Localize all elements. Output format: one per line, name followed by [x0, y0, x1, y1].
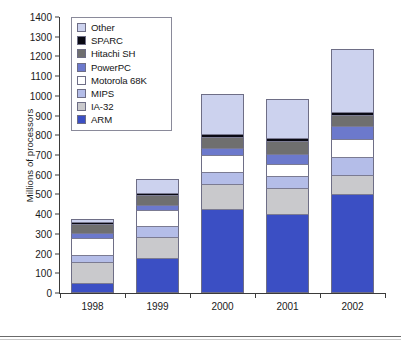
y-axis-tick-400: 400 [35, 209, 52, 220]
x-axis-label-2002: 2002 [323, 301, 383, 312]
bar-segment-2000-mips [201, 172, 244, 184]
legend-label-sparc: SPARC [91, 35, 123, 46]
bar-1998[interactable] [71, 219, 114, 293]
bar-2002[interactable] [331, 49, 374, 293]
bar-segment-2001-ia-32 [266, 188, 309, 215]
bar-segment-2001-other [266, 99, 309, 138]
bar-segment-1998-ia-32 [71, 262, 114, 283]
bar-segment-2001-powerpc [266, 154, 309, 164]
legend-label-ia-32: IA-32 [91, 101, 113, 112]
x-axis-tickmark-5 [385, 293, 386, 298]
legend-swatch-ia-32 [77, 102, 86, 111]
legend-swatch-motorola-68k [77, 76, 86, 85]
footer-clipped-text [4, 341, 399, 346]
bar-segment-2002-hitachi-sh [331, 115, 374, 127]
bar-segment-1999-hitachi-sh [136, 195, 179, 205]
bar-segment-1999-other [136, 179, 179, 193]
bar-segment-1998-mips [71, 255, 114, 263]
bar-segment-1999-motorola-68k [136, 210, 179, 226]
legend-label-mips: MIPS [91, 88, 114, 99]
legend-label-arm: ARM [91, 114, 112, 125]
legend-swatch-other [77, 23, 86, 32]
footer-divider-secondary [0, 339, 401, 340]
bar-segment-2000-hitachi-sh [201, 137, 244, 148]
x-axis-line [59, 293, 385, 294]
footer-divider [0, 336, 401, 337]
stacked-bar-chart: Millions of processors 01002003004005006… [0, 0, 401, 346]
x-axis-tickmark-4 [320, 293, 321, 298]
y-axis-tick-200: 200 [35, 248, 52, 259]
bar-segment-2001-motorola-68k [266, 164, 309, 176]
y-axis-tick-1300: 1300 [30, 31, 52, 42]
legend-item-hitachi-sh[interactable]: Hitachi SH [77, 47, 167, 60]
bar-segment-2002-ia-32 [331, 175, 374, 195]
legend-item-powerpc[interactable]: PowerPC [77, 61, 167, 74]
y-axis-tick-1100: 1100 [30, 71, 52, 82]
chart-legend: OtherSPARCHitachi SHPowerPCMotorola 68KM… [71, 17, 172, 131]
y-axis-tick-100: 100 [35, 268, 52, 279]
x-axis-label-2001: 2001 [258, 301, 318, 312]
x-axis-tickmark-3 [255, 293, 256, 298]
x-axis-label-2000: 2000 [193, 301, 253, 312]
x-axis-tickmark-1 [125, 293, 126, 298]
bar-segment-2002-arm [331, 194, 374, 293]
legend-swatch-arm [77, 115, 86, 124]
bar-segment-2001-hitachi-sh [266, 141, 309, 154]
bar-segment-1999-mips [136, 226, 179, 237]
x-axis-tickmark-2 [190, 293, 191, 298]
bar-segment-2001-mips [266, 176, 309, 188]
legend-swatch-sparc [77, 36, 86, 45]
y-axis-tick-900: 900 [35, 110, 52, 121]
bar-segment-2002-motorola-68k [331, 139, 374, 157]
bar-segment-1998-arm [71, 283, 114, 293]
y-axis-tick-700: 700 [35, 150, 52, 161]
bar-segment-2002-powerpc [331, 126, 374, 139]
bar-segment-2001-arm [266, 214, 309, 293]
bar-2001[interactable] [266, 99, 309, 293]
bar-segment-2002-mips [331, 157, 374, 175]
y-axis-tick-800: 800 [35, 130, 52, 141]
y-axis-tick-600: 600 [35, 169, 52, 180]
x-axis-tickmark-0 [60, 293, 61, 298]
bar-segment-2000-arm [201, 209, 244, 293]
legend-label-motorola-68k: Motorola 68K [91, 75, 147, 86]
legend-label-other: Other [91, 22, 115, 33]
legend-item-other[interactable]: Other [77, 21, 167, 34]
x-axis-label-1998: 1998 [63, 301, 123, 312]
y-axis-tick-labels: 0100200300400500600700800900100011001200… [0, 0, 60, 346]
bar-segment-2000-powerpc [201, 148, 244, 155]
bar-segment-1998-motorola-68k [71, 238, 114, 255]
legend-label-powerpc: PowerPC [91, 62, 131, 73]
legend-item-ia-32[interactable]: IA-32 [77, 100, 167, 113]
legend-label-hitachi-sh: Hitachi SH [91, 48, 135, 59]
legend-swatch-hitachi-sh [77, 49, 86, 58]
legend-item-motorola-68k[interactable]: Motorola 68K [77, 74, 167, 87]
bar-1999[interactable] [136, 179, 179, 293]
y-axis-tick-500: 500 [35, 189, 52, 200]
bar-segment-2000-ia-32 [201, 184, 244, 210]
bar-2000[interactable] [201, 94, 244, 293]
y-axis-tick-1400: 1400 [30, 12, 52, 23]
legend-item-mips[interactable]: MIPS [77, 87, 167, 100]
legend-item-sparc[interactable]: SPARC [77, 34, 167, 47]
y-axis-tick-1000: 1000 [30, 90, 52, 101]
legend-item-arm[interactable]: ARM [77, 113, 167, 126]
bar-segment-2000-motorola-68k [201, 155, 244, 172]
bar-segment-1998-hitachi-sh [71, 224, 114, 233]
x-axis-label-1999: 1999 [128, 301, 188, 312]
bar-segment-2000-other [201, 94, 244, 134]
bar-segment-1999-ia-32 [136, 237, 179, 258]
y-axis-tick-0: 0 [46, 288, 52, 299]
y-axis-tick-300: 300 [35, 228, 52, 239]
legend-swatch-powerpc [77, 63, 86, 72]
bar-segment-1999-arm [136, 258, 179, 293]
y-axis-tick-1200: 1200 [30, 51, 52, 62]
legend-swatch-mips [77, 89, 86, 98]
bar-segment-2002-other [331, 49, 374, 112]
